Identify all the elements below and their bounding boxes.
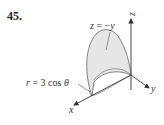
curve-label: r = 3 cos θ [26,77,69,88]
y-axis [131,75,149,88]
surface-z-equals-minus-y [87,30,131,96]
y-axis-label: y [150,83,156,94]
diagram-3d-surface: z y x z = −y r = 3 cos θ [0,0,164,125]
x-axis [74,75,131,105]
surface-label: z = −y [89,20,115,31]
z-axis-label: z [126,12,137,17]
x-axis-label: x [68,104,74,115]
curve-label-leader [78,84,90,92]
